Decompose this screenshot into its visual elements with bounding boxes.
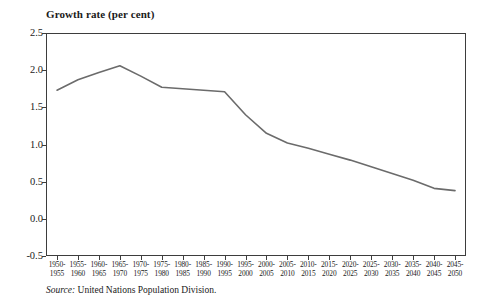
x-axis-tick-mark [287, 256, 288, 260]
figure-container: Growth rate (per cent) 2.52.01.51.00.50.… [0, 0, 489, 302]
plot-area [46, 33, 466, 256]
y-axis-tick-label: 2.5 [3, 28, 43, 38]
x-axis-tick-mark [455, 256, 456, 260]
y-axis-tick-mark [42, 219, 46, 220]
x-axis-tick-mark [99, 256, 100, 260]
x-axis-tick-mark [308, 256, 309, 260]
chart-title: Growth rate (per cent) [46, 8, 154, 20]
x-axis-tick-mark [371, 256, 372, 260]
x-axis-tick-mark [141, 256, 142, 260]
x-axis-tick-label-end: 2050 [440, 270, 470, 279]
y-axis-tick-mark [42, 70, 46, 71]
y-axis-tick-label: 1.0 [3, 140, 43, 150]
x-axis-tick-mark [329, 256, 330, 260]
x-axis-tick-mark [225, 256, 226, 260]
y-axis-tick-label: 1.5 [3, 102, 43, 112]
x-axis-label-group: 1950-19551955-19601960-19651965-19701970… [0, 261, 489, 283]
source-note: Source: United Nations Population Divisi… [46, 285, 216, 295]
y-axis-label-group: 2.52.01.51.00.50.0-0.5 [0, 0, 43, 302]
x-axis-tick-mark [162, 256, 163, 260]
y-axis-tick-mark [42, 182, 46, 183]
y-axis-tick-label: 2.0 [3, 65, 43, 75]
x-axis-tick-mark [120, 256, 121, 260]
x-axis-tick-mark [350, 256, 351, 260]
x-axis-tick-mark [78, 256, 79, 260]
y-axis-tick-mark [42, 145, 46, 146]
growth-rate-line [57, 66, 455, 191]
x-axis-tick-mark [57, 256, 58, 260]
x-axis-tick-label: 2045-2050 [440, 261, 470, 278]
y-axis-tick-label: -0.5 [3, 251, 43, 261]
x-axis-tick-mark [204, 256, 205, 260]
y-axis-tick-mark [42, 33, 46, 34]
y-axis-tick-mark [42, 256, 46, 257]
x-axis-tick-mark [266, 256, 267, 260]
x-axis-tick-mark [246, 256, 247, 260]
x-axis-tick-mark [413, 256, 414, 260]
y-axis-tick-label: 0.0 [3, 214, 43, 224]
y-axis-tick-label: 0.5 [3, 177, 43, 187]
x-axis-tick-mark [183, 256, 184, 260]
x-axis-tick-mark [434, 256, 435, 260]
y-axis-tick-mark [42, 107, 46, 108]
source-label: Source: [46, 285, 75, 295]
source-text: United Nations Population Division. [78, 285, 217, 295]
x-axis-tick-mark [392, 256, 393, 260]
